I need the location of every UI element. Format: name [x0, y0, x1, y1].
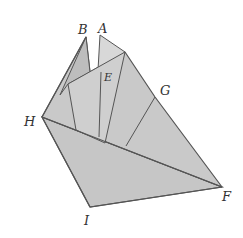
label-f: F — [222, 190, 231, 203]
label-g: G — [160, 84, 170, 97]
folded-paper-diagram — [0, 0, 243, 238]
label-e: E — [104, 72, 112, 83]
label-h: H — [24, 115, 35, 128]
label-b: B — [78, 23, 88, 36]
label-i: I — [84, 214, 89, 227]
label-a: A — [98, 22, 107, 35]
